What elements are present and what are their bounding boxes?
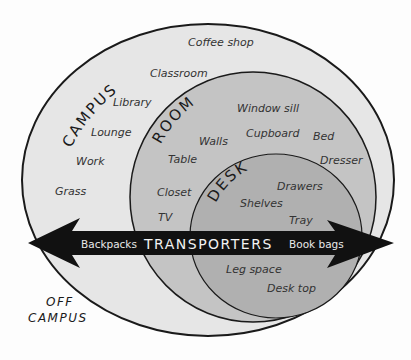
room-item: Window sill (237, 102, 299, 115)
room-item: TV (158, 211, 174, 224)
room-item: Cupboard (246, 127, 301, 140)
room-item: Table (168, 153, 197, 166)
room-item: Closet (157, 186, 192, 199)
desk-item: Leg space (226, 263, 282, 276)
desk-item: Shelves (240, 197, 283, 210)
campus-item: Lounge (91, 126, 132, 139)
room-item: Walls (199, 135, 228, 148)
room-item: Dresser (320, 154, 364, 167)
campus-item: Library (113, 96, 152, 109)
off-campus-label-line2: CAMPUS (28, 311, 88, 325)
room-item: Bed (313, 130, 335, 143)
arrow-title: TRANSPORTERS (143, 236, 273, 252)
off-campus-label-line1: OFF (46, 295, 74, 309)
campus-item: Grass (55, 185, 87, 198)
nested-spaces-diagram: CAMPUS ROOM DESK Coffee shop Classroom L… (0, 0, 411, 360)
arrow-right-label: Book bags (289, 238, 344, 250)
arrow-left-label: Backpacks (81, 238, 137, 250)
campus-item: Coffee shop (188, 36, 254, 49)
campus-item: Work (76, 155, 105, 168)
desk-item: Tray (289, 214, 313, 227)
desk-item: Desk top (267, 282, 316, 295)
campus-item: Classroom (150, 67, 208, 80)
desk-item: Drawers (277, 180, 323, 193)
